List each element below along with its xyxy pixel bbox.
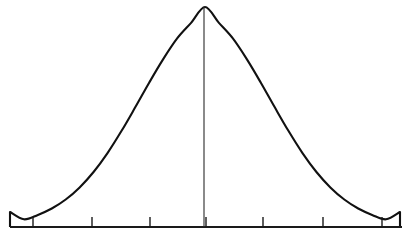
bell-curve-figure [0,0,412,241]
bell-curve-canvas [0,0,412,241]
